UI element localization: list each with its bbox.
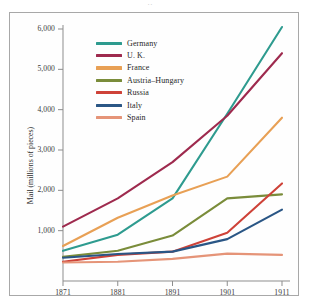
legend-swatch <box>96 91 122 94</box>
y-tick-label: 5,000 <box>25 64 55 73</box>
y-tick-label: 3,000 <box>25 145 55 154</box>
legend-row: Germany <box>96 37 226 49</box>
x-tick-label: 1891 <box>156 288 190 297</box>
legend-swatch <box>96 42 122 45</box>
legend-swatch <box>96 104 122 107</box>
x-tick-label: 1871 <box>46 288 80 297</box>
y-tick-label: 2,000 <box>25 185 55 194</box>
legend-row: U. K. <box>96 49 226 61</box>
legend-row: Italy <box>96 99 226 111</box>
top-edge-artifact: ·· <box>120 0 180 8</box>
legend-swatch <box>96 54 122 57</box>
x-tick-label: 1901 <box>210 288 244 297</box>
legend-row: France <box>96 62 226 74</box>
y-tick-label: 6,000 <box>25 24 55 33</box>
y-tick-label: 4,000 <box>25 105 55 114</box>
x-tick-label: 1911 <box>265 288 299 297</box>
legend-label: U. K. <box>127 51 145 60</box>
series-line-austria-hungary <box>63 194 282 257</box>
legend-row: Austria–Hungary <box>96 74 226 86</box>
legend-swatch <box>96 116 122 119</box>
legend-label: Italy <box>127 101 142 110</box>
legend-label: France <box>127 63 149 72</box>
chart-legend: GermanyU. K.FranceAustria–HungaryRussiaI… <box>96 37 226 124</box>
legend-row: Russia <box>96 87 226 99</box>
legend-swatch <box>96 79 122 82</box>
y-axis-label: Mail (millions of pieces) <box>26 106 35 226</box>
legend-label: Germany <box>127 39 157 48</box>
legend-label: Spain <box>127 113 146 122</box>
legend-row: Spain <box>96 111 226 123</box>
legend-swatch <box>96 66 122 69</box>
series-line-italy <box>63 210 282 258</box>
y-tick-label: 1,000 <box>25 226 55 235</box>
figure-container: ·· Mail (millions of pieces) 1,0002,0003… <box>0 0 309 306</box>
legend-label: Russia <box>127 88 149 97</box>
legend-label: Austria–Hungary <box>127 76 184 85</box>
chart-frame: Mail (millions of pieces) 1,0002,0003,00… <box>9 12 299 296</box>
x-tick-label: 1881 <box>101 288 135 297</box>
